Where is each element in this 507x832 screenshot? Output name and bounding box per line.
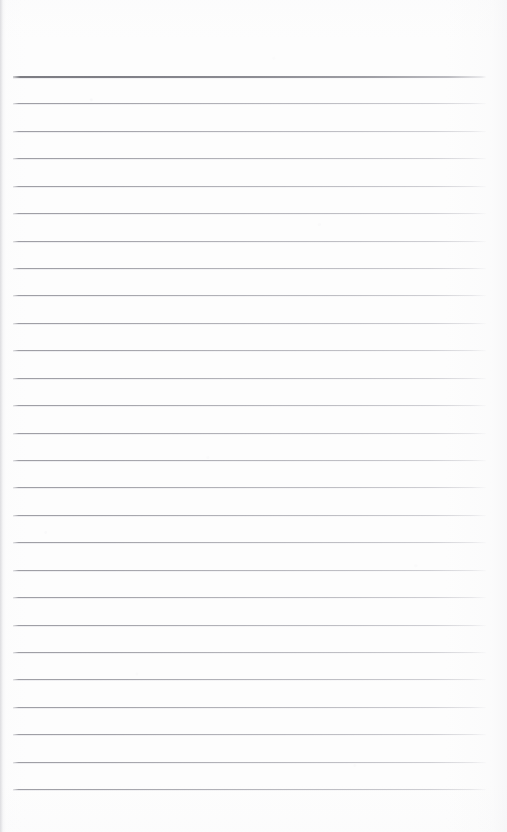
ruled-line: [13, 131, 486, 132]
ruled-line: [13, 433, 486, 434]
ruled-line: [13, 158, 486, 159]
ruled-line: [13, 405, 486, 406]
ruled-line: [13, 515, 486, 516]
ruled-line: [13, 213, 486, 214]
ruled-line: [13, 487, 486, 488]
ruled-line: [13, 789, 486, 790]
ruled-line: [13, 734, 486, 735]
ruled-line: [13, 762, 486, 763]
ruled-line: [13, 542, 486, 543]
ruled-line: [13, 625, 486, 626]
ruled-line: [13, 597, 486, 598]
ruled-line: [13, 268, 486, 269]
ruled-line: [13, 378, 486, 379]
ruled-line: [13, 707, 486, 708]
ruled-line: [13, 570, 486, 571]
ruled-line: [13, 460, 486, 461]
ruled-line: [13, 103, 486, 104]
ruled-line: [13, 241, 486, 242]
ruled-line: [13, 186, 486, 187]
ruled-line: [13, 76, 486, 78]
ruled-line: [13, 350, 486, 351]
scanned-page: [0, 0, 507, 832]
ruled-line: [13, 323, 486, 324]
ruled-lines-layer: [0, 0, 507, 832]
ruled-line: [13, 652, 486, 653]
ruled-line: [13, 295, 486, 296]
ruled-line: [13, 679, 486, 680]
